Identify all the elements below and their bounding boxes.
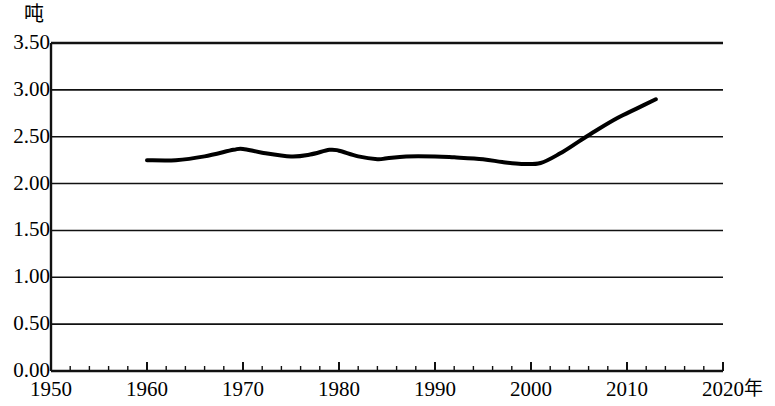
plot-area bbox=[0, 0, 775, 406]
gridlines bbox=[51, 43, 723, 324]
axis-lines bbox=[51, 43, 723, 371]
line-chart: 吨 年 0.000.501.001.502.002.503.003.50 195… bbox=[0, 0, 775, 406]
x-axis-minor-ticks bbox=[51, 362, 723, 371]
data-series-line bbox=[147, 99, 656, 164]
